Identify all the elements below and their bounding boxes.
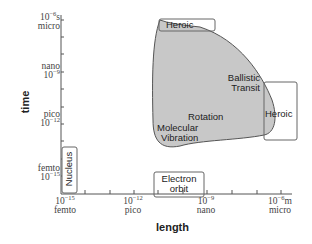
- y-tick-pico: pico 10−12: [40, 110, 60, 128]
- y-tick-nano: nano 10−9: [42, 62, 60, 80]
- x-tick-nano: 10−9 nano: [191, 197, 221, 215]
- nucleus-label: Nucleus: [64, 146, 74, 192]
- ballistic-transit-label: BallisticTransit: [222, 73, 260, 93]
- molecular-vibration-label: MolecularVibration: [157, 123, 198, 143]
- rotation-label: Rotation: [188, 112, 223, 122]
- x-tick-pico: 10−12 pico: [118, 197, 148, 215]
- y-tick-femto: femto 10−15: [38, 164, 60, 182]
- y-tick-micro: 10−6s micro: [38, 13, 60, 31]
- y-axis-title: time: [19, 87, 31, 117]
- x-axis-title: length: [156, 221, 189, 233]
- electron-orbit-label: Electronorbit: [154, 174, 204, 194]
- heroic-top-label: Heroic: [166, 20, 193, 30]
- x-tick-femto: 10−15 femto: [50, 197, 80, 215]
- x-tick-micro: 10−6m micro: [262, 197, 298, 215]
- heroic-right-label: Heroic: [265, 109, 292, 119]
